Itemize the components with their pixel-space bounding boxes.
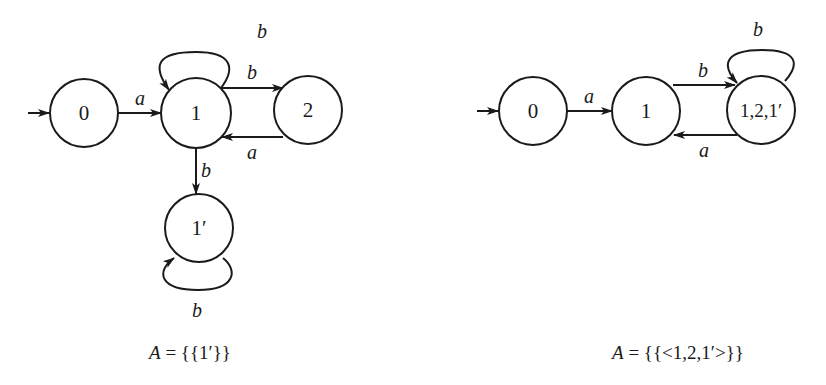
edge-label-a: a bbox=[247, 141, 257, 163]
left-automaton: a b b a b b 0 1 2 1′ bbox=[28, 20, 342, 363]
state-1: 1 bbox=[161, 78, 231, 148]
edge-label-a: a bbox=[584, 85, 594, 107]
caption-right: A = {{<1,2,1′>}} bbox=[610, 342, 744, 363]
state-label: 1 bbox=[641, 99, 652, 123]
caption-value: = {{1′}} bbox=[161, 342, 231, 363]
edge-label-b: b bbox=[257, 20, 267, 42]
caption-value: = {{<1,2,1′>}} bbox=[624, 342, 744, 363]
right-automaton: a b a b 0 1 1,2,1′ A = {{<1,2,1′>}} bbox=[477, 18, 795, 363]
edge-label-b: b bbox=[201, 159, 211, 181]
state-label: 2 bbox=[303, 98, 314, 122]
state-0: 0 bbox=[50, 79, 118, 147]
state-label: 0 bbox=[528, 99, 539, 123]
state-1prime: 1′ bbox=[165, 194, 233, 262]
caption-variable: A bbox=[610, 342, 624, 363]
edge-label-b: b bbox=[192, 299, 202, 321]
edge-label-a: a bbox=[135, 87, 145, 109]
state-label: 1′ bbox=[191, 216, 206, 240]
state-label: 1 bbox=[191, 101, 202, 125]
edge-label-a: a bbox=[699, 139, 709, 161]
state-0: 0 bbox=[499, 77, 567, 145]
caption-variable: A bbox=[147, 342, 161, 363]
state-label: 1,2,1′ bbox=[740, 100, 782, 121]
edge-label-b: b bbox=[247, 61, 257, 83]
state-2: 2 bbox=[274, 76, 342, 144]
state-label: 0 bbox=[79, 101, 90, 125]
state-1: 1 bbox=[612, 77, 680, 145]
edge-label-b: b bbox=[753, 18, 763, 40]
state-1-2-1prime: 1,2,1′ bbox=[727, 76, 795, 144]
automata-figure: a b b a b b 0 1 2 1′ bbox=[0, 0, 826, 385]
caption-left: A = {{1′}} bbox=[147, 342, 231, 363]
edge-label-b: b bbox=[698, 59, 708, 81]
